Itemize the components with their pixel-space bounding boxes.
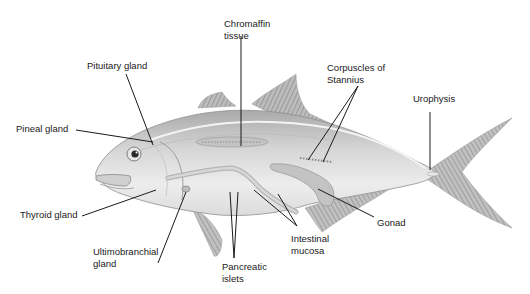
urophysis-organ (427, 172, 439, 176)
label-ultimobranchial-gland: Ultimobranchial gland (93, 246, 158, 270)
label-corpuscles-of-stannius: Corpuscles of Stannius (327, 62, 385, 86)
dorsal-fin-1 (198, 92, 236, 108)
label-chromaffin-tissue: Chromaffin tissue (224, 18, 270, 42)
ultimobranchial-organ (182, 186, 190, 192)
label-thyroid-gland: Thyroid gland (20, 209, 78, 221)
label-urophysis: Urophysis (413, 93, 455, 105)
fish-endocrine-diagram: Chromaffin tissue Pituitary gland Corpus… (0, 0, 530, 294)
label-pineal-gland: Pineal gland (16, 123, 68, 135)
pelvic-fin (192, 208, 222, 256)
label-pancreatic-islets: Pancreatic islets (222, 261, 267, 285)
label-intestinal-mucosa: Intestinal mucosa (291, 233, 329, 257)
label-gonad: Gonad (377, 217, 406, 229)
fish-illustration (0, 0, 530, 294)
label-pituitary-gland: Pituitary gland (87, 60, 147, 72)
